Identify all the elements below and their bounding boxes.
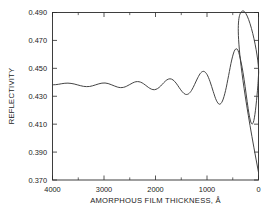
reflectivity-curve [53, 11, 259, 173]
y-tick-label: 0.370 [29, 176, 48, 185]
x-axis-major-ticks [53, 13, 259, 181]
y-tick-label: 0.390 [29, 148, 48, 157]
x-axis-tick-labels: 40003000200010000 [44, 185, 260, 194]
x-axis-title: AMORPHOUS FILM THICKNESS, Å [90, 196, 221, 205]
y-tick-label: 0.470 [29, 36, 48, 45]
y-tick-label: 0.410 [29, 120, 48, 129]
y-axis-tick-labels: 0.3700.3900.4100.4300.4500.4700.490 [29, 8, 48, 185]
x-axis-minor-ticks [78, 13, 233, 181]
plot-frame [53, 13, 259, 181]
x-tick-label: 2000 [147, 185, 163, 194]
y-tick-label: 0.450 [29, 64, 48, 73]
y-tick-label: 0.430 [29, 92, 48, 101]
x-tick-label: 1000 [199, 185, 215, 194]
reflectivity-line-chart: 40003000200010000 0.3700.3900.4100.4300.… [0, 0, 279, 213]
y-tick-label: 0.490 [29, 8, 48, 17]
x-tick-label: 3000 [96, 185, 112, 194]
y-axis-major-ticks [53, 13, 259, 181]
y-axis-title: REFLECTIVITY [7, 68, 16, 125]
x-tick-label: 4000 [44, 185, 60, 194]
x-tick-label: 0 [256, 185, 260, 194]
chart-figure: 40003000200010000 0.3700.3900.4100.4300.… [0, 0, 279, 213]
